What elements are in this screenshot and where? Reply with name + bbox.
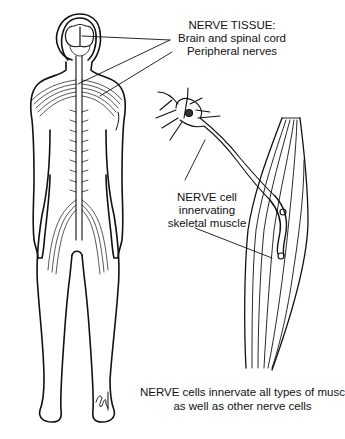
footnote-line2: as well as other nerve cells bbox=[140, 400, 345, 413]
skeletal-muscle bbox=[245, 118, 308, 370]
footnote-line1: NERVE cells innervate all types of muscl… bbox=[140, 386, 345, 399]
artist-signature bbox=[96, 392, 108, 410]
brain-spinal-cord-label: Brain and spinal cord bbox=[167, 32, 297, 45]
neuron bbox=[156, 88, 287, 259]
nerve-cell-label-line2: innervating bbox=[152, 204, 262, 217]
brain bbox=[65, 25, 93, 57]
nerve-tissue-title: NERVE TISSUE: bbox=[172, 19, 292, 32]
peripheral-nerves-label: Peripheral nerves bbox=[167, 45, 297, 58]
nerve-cell-label-line3: skeletal muscle bbox=[152, 217, 262, 230]
human-body-outline bbox=[31, 14, 125, 422]
nerve-cell-label-line1: NERVE cell bbox=[152, 191, 262, 204]
